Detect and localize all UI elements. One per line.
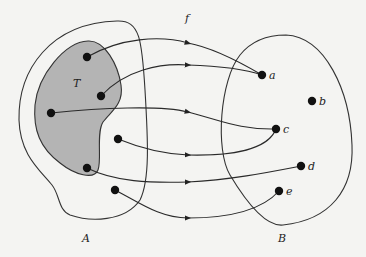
domain-point-p3	[47, 109, 55, 117]
domain-point-p4	[114, 135, 122, 143]
codomain-label-e: e	[286, 185, 293, 198]
mapping-arrow-p6-e	[115, 190, 188, 218]
mapping-arrow-p1-a-tail	[188, 43, 262, 75]
mapping-arrow-p5-d	[87, 168, 188, 182]
domain-point-p1	[83, 53, 91, 61]
mapping-arrow-p5-d-tail	[188, 166, 301, 182]
codomain-point-d	[297, 162, 305, 170]
codomain-point-c	[272, 125, 280, 133]
codomain-point-a	[258, 71, 266, 79]
codomain-label-b: b	[319, 95, 326, 108]
function-mapping-diagram: f T A B a b c d e	[0, 0, 366, 257]
domain-point-p6	[111, 186, 119, 194]
domain-point-p5	[83, 164, 91, 172]
domain-point-p2	[97, 92, 105, 100]
codomain-label-c: c	[283, 123, 289, 136]
codomain-label-d: d	[308, 160, 315, 173]
codomain-point-b	[308, 97, 316, 105]
function-label: f	[184, 12, 191, 25]
mapping-arrow-p4-c-tail	[188, 129, 276, 155]
codomain-label-a: a	[269, 69, 276, 82]
mapping-arrow-p6-e-tail	[188, 191, 279, 218]
mapping-arrow-p4-c	[118, 139, 188, 155]
codomain-point-e	[275, 187, 283, 195]
domain-set-label: A	[81, 232, 90, 245]
mapping-arrow-p2-a-tail	[188, 65, 262, 75]
codomain-set-label: B	[277, 232, 286, 245]
mapping-arrow-p3-c-tail	[188, 112, 276, 129]
